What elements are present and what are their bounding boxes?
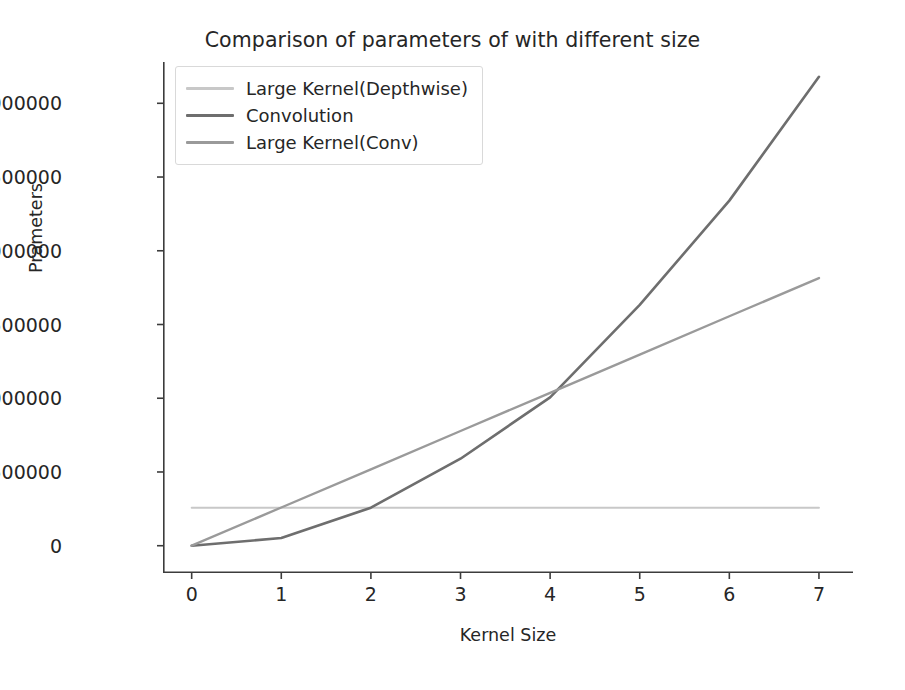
legend-item-label: Large Kernel(Conv) bbox=[246, 132, 419, 153]
legend-swatch-icon bbox=[186, 141, 234, 144]
y-axis-label: Prameters bbox=[26, 0, 52, 573]
legend-item-label: Large Kernel(Depthwise) bbox=[246, 78, 468, 99]
x-tick-label: 6 bbox=[709, 583, 749, 605]
chart-title: Comparison of parameters of with differe… bbox=[0, 28, 905, 52]
legend-item-0[interactable]: Large Kernel(Depthwise) bbox=[186, 75, 468, 102]
chart-legend: Large Kernel(Depthwise)ConvolutionLarge … bbox=[175, 66, 483, 165]
x-tick-label: 7 bbox=[799, 583, 839, 605]
legend-item-1[interactable]: Convolution bbox=[186, 102, 468, 129]
x-axis-label: Kernel Size bbox=[163, 625, 853, 645]
x-tick-label: 1 bbox=[261, 583, 301, 605]
x-tick-label: 5 bbox=[620, 583, 660, 605]
x-tick-label: 0 bbox=[172, 583, 212, 605]
x-tick-label: 2 bbox=[351, 583, 391, 605]
legend-swatch-icon bbox=[186, 114, 234, 117]
legend-swatch-icon bbox=[186, 87, 234, 90]
chart-figure: Comparison of parameters of with differe… bbox=[0, 0, 905, 690]
legend-item-label: Convolution bbox=[246, 105, 354, 126]
legend-item-2[interactable]: Large Kernel(Conv) bbox=[186, 129, 468, 156]
x-tick-label: 4 bbox=[530, 583, 570, 605]
x-tick-label: 3 bbox=[441, 583, 481, 605]
series-line-2 bbox=[192, 278, 819, 546]
